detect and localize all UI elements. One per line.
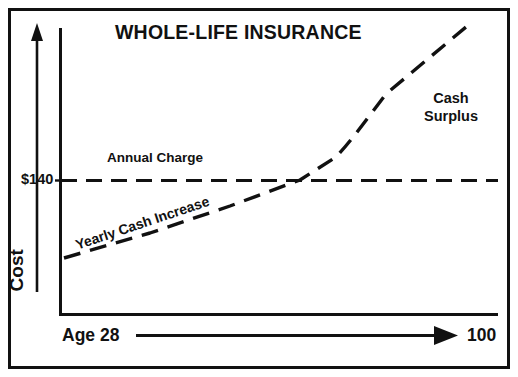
x-axis-start-label: Age 28 xyxy=(62,326,119,345)
page-title: WHOLE-LIFE INSURANCE xyxy=(115,22,362,43)
x-axis-end-label: 100 xyxy=(467,326,496,345)
cost-axis-arrow-icon xyxy=(31,23,43,292)
age-range-arrow-icon xyxy=(136,326,458,345)
cash-surplus-line-2: Surplus xyxy=(424,108,478,126)
y-axis-title: Cost xyxy=(7,249,28,291)
whole-life-insurance-chart: WHOLE-LIFE INSURANCE $140 Cost Age 28 10… xyxy=(0,0,518,377)
annual-charge-annotation: Annual Charge xyxy=(107,151,203,166)
cash-surplus-line-1: Cash xyxy=(424,90,478,108)
cash-surplus-annotation: Cash Surplus xyxy=(424,90,478,125)
y-axis-tick-label: $140 xyxy=(21,172,53,188)
